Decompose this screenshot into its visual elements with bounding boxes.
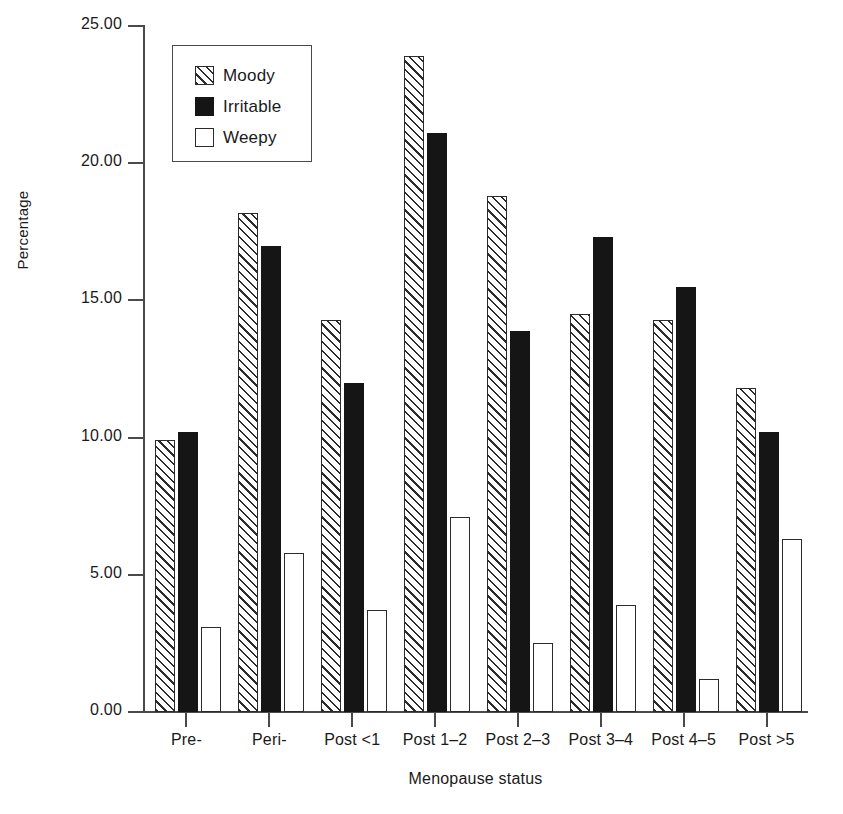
bar-weepy-6 — [699, 679, 719, 712]
bar-weepy-0 — [201, 627, 221, 712]
bar-weepy-3 — [450, 517, 470, 712]
y-axis-tick-label: 25.00 — [30, 16, 122, 32]
y-axis-title: Percentage — [14, 130, 31, 330]
legend-label: Irritable — [223, 97, 282, 117]
bar-irritable-1 — [261, 246, 281, 712]
x-axis-tick — [434, 713, 436, 727]
bar-weepy-1 — [284, 553, 304, 712]
bar-moody-6 — [653, 320, 673, 712]
x-axis-tick — [517, 713, 519, 727]
bar-irritable-6 — [676, 287, 696, 712]
legend: MoodyIrritableWeepy — [172, 45, 312, 162]
bar-irritable-5 — [593, 237, 613, 712]
x-axis-tick — [185, 713, 187, 727]
x-axis-tick — [766, 713, 768, 727]
legend-item-irritable: Irritable — [195, 91, 311, 122]
y-axis-tick-label: 5.00 — [30, 565, 122, 581]
bar-moody-2 — [321, 320, 341, 712]
legend-swatch-irritable-icon — [195, 97, 214, 116]
bar-moody-4 — [487, 196, 507, 712]
y-axis-tick — [128, 25, 143, 27]
bar-weepy-4 — [533, 643, 553, 712]
bar-irritable-4 — [510, 331, 530, 712]
bar-moody-7 — [736, 388, 756, 712]
y-axis-tick-label: 15.00 — [30, 290, 122, 306]
y-axis-tick — [128, 574, 143, 576]
y-axis-tick — [128, 162, 143, 164]
bar-irritable-0 — [178, 432, 198, 712]
y-axis-tick — [128, 437, 143, 439]
x-axis-tick — [600, 713, 602, 727]
bar-irritable-2 — [344, 383, 364, 712]
y-axis-tick — [128, 299, 143, 301]
bar-weepy-7 — [782, 539, 802, 712]
bar-moody-3 — [404, 56, 424, 712]
x-axis-tick-label: Post >5 — [707, 731, 827, 749]
x-axis-title: Menopause status — [143, 770, 808, 788]
legend-item-moody: Moody — [195, 60, 311, 91]
bar-weepy-5 — [616, 605, 636, 712]
bar-irritable-3 — [427, 133, 447, 712]
bar-moody-0 — [155, 440, 175, 712]
bar-weepy-2 — [367, 610, 387, 712]
legend-item-weepy: Weepy — [195, 122, 311, 153]
bar-moody-1 — [238, 213, 258, 712]
y-axis-tick — [128, 711, 143, 713]
legend-swatch-weepy-icon — [195, 128, 214, 147]
x-axis-tick — [351, 713, 353, 727]
legend-label: Weepy — [223, 128, 277, 148]
legend-label: Moody — [223, 66, 275, 86]
y-axis-tick-label: 20.00 — [30, 153, 122, 169]
x-axis-tick — [268, 713, 270, 727]
y-axis-tick-label: 10.00 — [30, 428, 122, 444]
bar-chart-figure: Percentage 0.005.0010.0015.0020.0025.00 … — [0, 0, 843, 814]
x-axis-tick — [683, 713, 685, 727]
y-axis-tick-label: 0.00 — [30, 702, 122, 718]
bar-irritable-7 — [759, 432, 779, 712]
legend-swatch-moody-icon — [195, 66, 214, 85]
bar-moody-5 — [570, 314, 590, 712]
